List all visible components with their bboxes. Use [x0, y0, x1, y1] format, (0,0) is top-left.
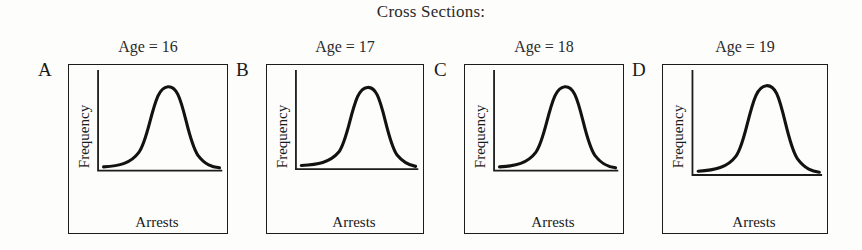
panel-c: Age = 18 C Frequency Arrests: [434, 38, 624, 238]
panel-d-x-axis-label: Arrests: [683, 214, 825, 231]
panel-d-curve-chart: [683, 69, 825, 183]
panel-a-axes: [98, 71, 221, 171]
panel-d-distribution-curve: [698, 86, 819, 173]
panel-a-letter: A: [38, 60, 52, 79]
panel-c-plot-area: Frequency Arrests: [465, 65, 623, 233]
panel-a-caption: Age = 16: [68, 38, 228, 56]
panel-a-distribution-curve: [104, 87, 220, 168]
panel-a-plot-area: Frequency Arrests: [69, 65, 227, 233]
panel-d-axes: [692, 71, 821, 175]
panel-c-axes: [494, 71, 617, 171]
panel-c-caption: Age = 18: [464, 38, 624, 56]
panel-b-caption: Age = 17: [266, 38, 424, 56]
panel-b-distribution-curve: [301, 87, 415, 166]
panel-c-letter: C: [434, 60, 447, 79]
panel-b-box: Frequency Arrests: [266, 64, 424, 234]
panel-d-plot-area: Frequency Arrests: [663, 65, 827, 233]
panel-b-axes: [296, 71, 417, 169]
panel-b-x-axis-label: Arrests: [287, 214, 421, 231]
panel-a-curve-chart: [89, 69, 225, 178]
cross-sections-figure: Cross Sections: Age = 16 A Frequency Arr…: [0, 0, 862, 250]
panel-c-curve-chart: [485, 69, 621, 178]
panel-b-plot-area: Frequency Arrests: [267, 65, 423, 233]
panel-c-x-axis-label: Arrests: [485, 214, 621, 231]
panel-c-box: Frequency Arrests: [464, 64, 624, 234]
panel-a: Age = 16 A Frequency Arrests: [38, 38, 228, 238]
panel-b: Age = 17 B Frequency Arrests: [236, 38, 424, 238]
panel-d: Age = 19 D Frequency Arrests: [632, 38, 828, 238]
panel-b-curve-chart: [287, 69, 421, 176]
panel-c-distribution-curve: [500, 87, 616, 168]
panel-d-caption: Age = 19: [662, 38, 828, 56]
panel-d-letter: D: [632, 60, 646, 79]
panel-a-box: Frequency Arrests: [68, 64, 228, 234]
panel-a-x-axis-label: Arrests: [89, 214, 225, 231]
panel-row: Age = 16 A Frequency Arrests Age = 17 B: [0, 0, 862, 250]
panel-b-letter: B: [236, 60, 249, 79]
panel-d-box: Frequency Arrests: [662, 64, 828, 234]
